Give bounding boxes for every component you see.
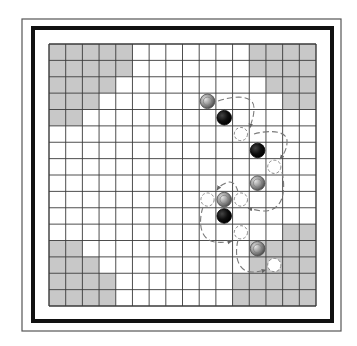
shaded-cells-top-right bbox=[266, 77, 316, 93]
landing-spot-dashed-circle bbox=[201, 193, 214, 206]
gray-piece-disc bbox=[250, 241, 265, 256]
landing-spot-dashed-circle bbox=[234, 127, 247, 140]
shaded-cells-top-left bbox=[49, 93, 99, 109]
shaded-cells-bottom-right bbox=[233, 273, 316, 289]
black-piece[interactable] bbox=[217, 209, 232, 224]
landing-spot-dashed-circle bbox=[268, 160, 281, 173]
black-piece-disc bbox=[250, 143, 265, 158]
shaded-cells-bottom-left bbox=[49, 257, 99, 273]
gray-piece[interactable] bbox=[200, 94, 215, 109]
gray-piece[interactable] bbox=[250, 241, 265, 256]
black-piece-disc bbox=[217, 110, 232, 125]
landing-spot-dashed-circle bbox=[234, 226, 247, 239]
landing-spot-dashed-circle bbox=[234, 193, 247, 206]
shaded-cells-top-left bbox=[49, 44, 132, 60]
gray-piece-disc bbox=[217, 192, 232, 207]
checkers-jump-diagram bbox=[0, 0, 357, 346]
gray-piece-disc bbox=[250, 176, 265, 191]
black-piece-disc bbox=[217, 209, 232, 224]
gray-piece-disc bbox=[200, 94, 215, 109]
shaded-cells-top-left bbox=[49, 60, 132, 76]
gray-piece[interactable] bbox=[250, 176, 265, 191]
gray-piece[interactable] bbox=[217, 192, 232, 207]
landing-spot-dashed-circle bbox=[268, 258, 281, 271]
game-board bbox=[0, 0, 357, 346]
black-piece[interactable] bbox=[217, 110, 232, 125]
black-piece[interactable] bbox=[250, 143, 265, 158]
shaded-cells-bottom-right bbox=[233, 290, 316, 306]
